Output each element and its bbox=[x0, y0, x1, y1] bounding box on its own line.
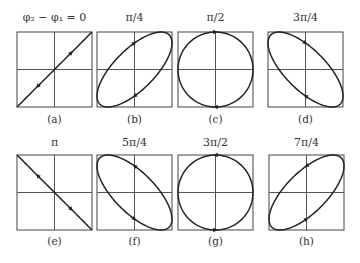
panel-b: π/4 (b) bbox=[97, 11, 172, 125]
panel-label: (a) bbox=[47, 113, 61, 125]
panel-label: (b) bbox=[127, 113, 142, 125]
panel-label: (d) bbox=[298, 113, 313, 125]
panel-title: 7π/4 bbox=[294, 136, 319, 149]
panel-label: (e) bbox=[47, 235, 61, 247]
panel-d: 3π/4 (d) bbox=[268, 11, 343, 125]
panel-title: 5π/4 bbox=[122, 136, 147, 149]
panel-label: (c) bbox=[208, 113, 222, 125]
panel-label: (h) bbox=[299, 235, 314, 247]
panel-title: 3π/4 bbox=[293, 11, 318, 24]
panel-title: π/2 bbox=[207, 11, 225, 24]
panel-a: φ₂ − φ₁ = 0 (a) bbox=[17, 11, 92, 125]
panel-label: (f) bbox=[128, 235, 140, 247]
phase-difference-figure: φ₂ − φ₁ = 0 (a) π/4 (b) π/2 (c) 3π/4 (d)… bbox=[0, 0, 360, 263]
panel-h: 7π/4 (h) bbox=[269, 136, 344, 247]
panel-label: (g) bbox=[208, 235, 223, 247]
panel-title: π/4 bbox=[126, 11, 144, 24]
panel-title: 3π/2 bbox=[203, 136, 228, 149]
panel-f: 5π/4 (f) bbox=[97, 136, 172, 247]
panel-title: φ₂ − φ₁ = 0 bbox=[23, 11, 87, 24]
panel-title: π bbox=[51, 136, 58, 149]
panel-g: 3π/2 (g) bbox=[178, 136, 253, 247]
panel-e: π (e) bbox=[17, 136, 92, 247]
panel-c: π/2 (c) bbox=[178, 11, 253, 125]
